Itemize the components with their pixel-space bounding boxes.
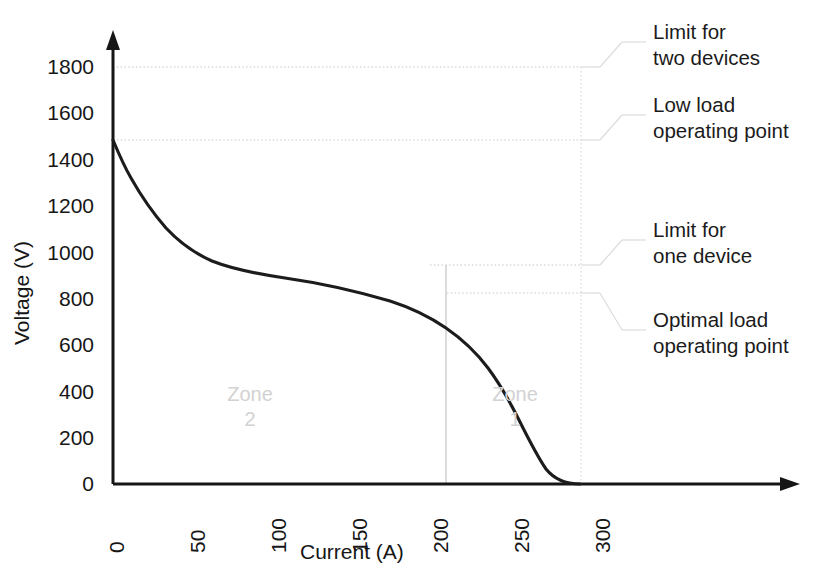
y-tick-1400: 1400	[28, 148, 94, 172]
callout-low-load: Low load operating point	[653, 92, 789, 144]
x-tick-0: 0	[105, 541, 129, 553]
x-tick-100: 100	[267, 518, 291, 553]
y-tick-200: 200	[28, 426, 94, 450]
reference-line-limit-two-devices	[113, 42, 646, 67]
y-tick-800: 800	[28, 287, 94, 311]
annotation-zone-1: Zone 1	[470, 382, 560, 432]
callout-limit-one-device-line2: one device	[653, 243, 752, 269]
annotation-zone-1-line2: 1	[470, 407, 560, 432]
y-tick-1800: 1800	[28, 55, 94, 79]
voltage-current-curve	[113, 140, 580, 484]
annotation-zone-2-line1: Zone	[205, 382, 295, 407]
x-tick-250: 250	[510, 518, 534, 553]
y-tick-1200: 1200	[28, 194, 94, 218]
callout-low-load-line2: operating point	[653, 118, 789, 144]
x-tick-50: 50	[186, 530, 210, 553]
callout-limit-one-device-line1: Limit for	[653, 217, 752, 243]
x-tick-200: 200	[429, 518, 453, 553]
annotation-zone-1-line1: Zone	[470, 382, 560, 407]
callout-limit-two-devices-line1: Limit for	[653, 19, 760, 45]
reference-line-low-load-operating-point	[113, 115, 646, 140]
y-tick-1600: 1600	[28, 101, 94, 125]
callout-limit-two-devices-line2: two devices	[653, 45, 760, 71]
annotation-zone-2: Zone 2	[205, 382, 295, 432]
y-tick-0: 0	[28, 472, 94, 496]
y-tick-600: 600	[28, 333, 94, 357]
callout-limit-two-devices: Limit for two devices	[653, 19, 760, 71]
chart-figure: 1800 1600 1400 1200 1000 800 600 400 200…	[0, 0, 814, 578]
x-axis-title: Current (A)	[300, 540, 404, 564]
reference-line-optimal-load-operating-point	[447, 293, 646, 330]
chart-plot-area	[0, 0, 814, 578]
callout-limit-one-device: Limit for one device	[653, 217, 752, 269]
reference-line-limit-one-device	[430, 240, 646, 265]
callout-low-load-line1: Low load	[653, 92, 789, 118]
y-axis-title: Voltage (V)	[10, 241, 34, 345]
callout-optimal-load-line1: Optimal load	[653, 307, 789, 333]
y-tick-400: 400	[28, 380, 94, 404]
y-tick-1000: 1000	[28, 241, 94, 265]
callout-optimal-load-line2: operating point	[653, 333, 789, 359]
x-tick-300: 300	[591, 518, 615, 553]
callout-optimal-load: Optimal load operating point	[653, 307, 789, 359]
annotation-zone-2-line2: 2	[205, 407, 295, 432]
